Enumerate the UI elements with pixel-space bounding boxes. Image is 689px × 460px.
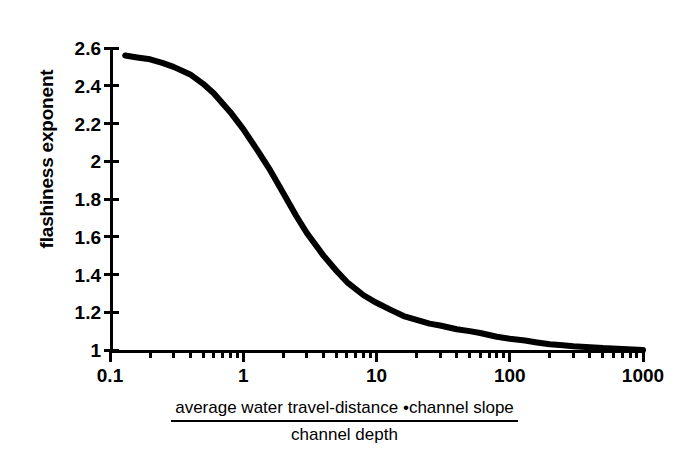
- x-tick-label: 1: [238, 366, 249, 385]
- y-tick-label: 2.2: [75, 114, 101, 133]
- x-axis-fraction: average water travel-distance •channel s…: [171, 398, 518, 444]
- x-axis-title: average water travel-distance •channel s…: [0, 398, 689, 444]
- y-tick-label: 1: [90, 341, 101, 360]
- y-tick-label: 2: [90, 152, 101, 171]
- y-tick-label: 2.6: [75, 39, 101, 58]
- x-axis-denominator: channel depth: [171, 422, 518, 445]
- y-tick-label: 1.4: [75, 265, 101, 284]
- chart-figure: flashiness exponent 11.21.41.61.822.22.4…: [0, 0, 689, 460]
- data-curve: [110, 48, 643, 354]
- x-tick-label: 0.1: [97, 366, 123, 385]
- y-tick-label: 1.6: [75, 227, 101, 246]
- x-tick-label: 100: [494, 366, 526, 385]
- x-tick-label: 1000: [622, 366, 664, 385]
- x-axis-numerator: average water travel-distance •channel s…: [171, 398, 518, 422]
- x-tick-label: 10: [366, 366, 387, 385]
- y-tick-label: 1.2: [75, 303, 101, 322]
- y-tick-label: 2.4: [75, 76, 101, 95]
- y-tick-label: 1.8: [75, 190, 101, 209]
- y-axis-title: flashiness exponent: [36, 34, 58, 284]
- plot-area: 11.21.41.61.822.22.42.6 0.11101001000: [110, 48, 642, 352]
